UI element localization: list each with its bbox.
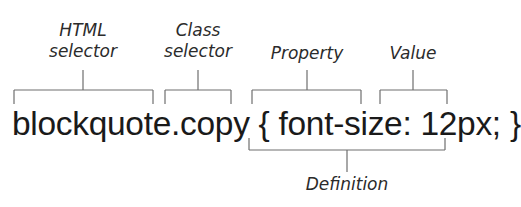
html-selector-label-line1: HTML [43, 20, 123, 41]
value-bracket [380, 70, 447, 104]
class-selector-label-line1: Class [158, 20, 238, 41]
css-rule-code: blockquote.copy { font-size: 12px; } [12, 104, 521, 144]
value-label: Value [378, 43, 448, 64]
html-selector-label: HTML selector [43, 20, 123, 62]
property-bracket [252, 70, 361, 104]
class-selector-label-line2: selector [158, 41, 238, 62]
definition-label: Definition [297, 174, 397, 195]
class-selector-bracket [165, 70, 231, 104]
property-label: Property [262, 43, 352, 64]
html-selector-bracket [14, 70, 153, 104]
class-selector-label: Class selector [158, 20, 238, 62]
html-selector-label-line2: selector [43, 41, 123, 62]
